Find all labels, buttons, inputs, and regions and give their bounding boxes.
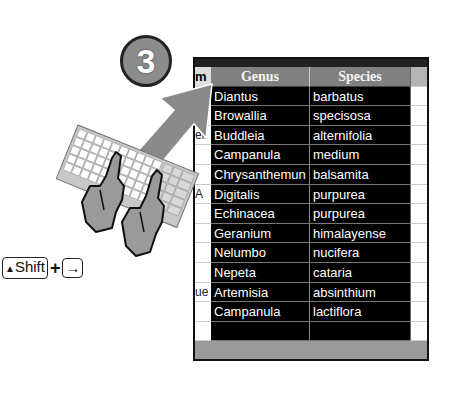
shift-key-label: Shift — [15, 258, 45, 275]
shift-arrow-icon: ▲ — [5, 263, 15, 274]
plus-sign: + — [50, 258, 61, 279]
right-arrow-key: → — [62, 258, 83, 278]
step-number-badge: 3 — [120, 35, 172, 87]
step-number: 3 — [137, 42, 156, 81]
keyboard-illustration — [0, 0, 457, 395]
keyboard-shortcut: ▲Shift + → — [2, 257, 83, 279]
shift-key: ▲Shift — [2, 257, 48, 279]
